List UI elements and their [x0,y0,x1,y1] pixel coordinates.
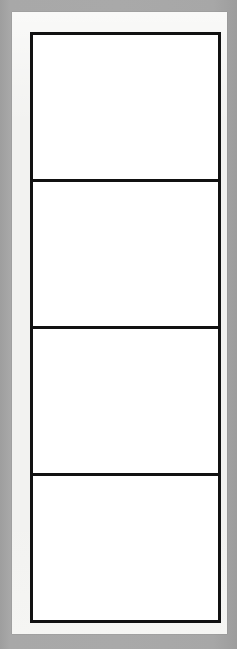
comic-panel-4-content [33,476,218,620]
comic-panel-3-content [33,329,218,473]
comic-page [12,12,227,634]
page-backdrop [0,0,237,649]
comic-panel-2-content [33,182,218,326]
comic-panel-4[interactable] [33,473,218,620]
comic-panel-1-content [33,35,218,179]
panel-frame [30,32,221,623]
comic-panel-3[interactable] [33,326,218,473]
comic-panel-2[interactable] [33,179,218,326]
comic-panel-1[interactable] [33,35,218,179]
